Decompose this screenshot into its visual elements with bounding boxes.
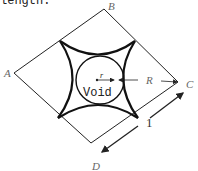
small-radius-label: r <box>100 71 104 80</box>
side-length-arrow-down <box>102 126 138 152</box>
vertex-label-c: C <box>186 78 194 90</box>
large-radius-arrow-right <box>161 81 177 82</box>
vertex-label-d: D <box>91 160 100 171</box>
vertex-label-a: A <box>3 67 11 79</box>
packing-diagram: r R Void 1 B A C D <box>0 0 198 171</box>
side-length-label: 1 <box>146 115 153 130</box>
void-label: Void <box>83 86 112 100</box>
side-length-arrow-up <box>150 93 183 118</box>
unit-cell-square <box>14 9 178 143</box>
void-center-dot <box>96 79 98 81</box>
large-radius-label: R <box>145 74 153 86</box>
vertex-label-b: B <box>108 0 115 12</box>
